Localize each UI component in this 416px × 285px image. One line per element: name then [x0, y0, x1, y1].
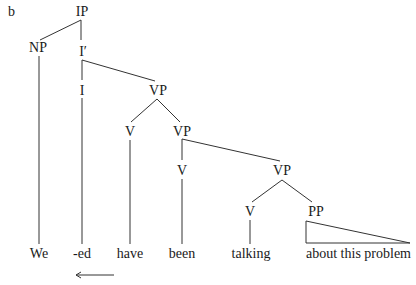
- node-pp: PP: [308, 204, 324, 219]
- node-v-1: V: [125, 124, 135, 139]
- edge-ibar-vp: [82, 60, 155, 81]
- syntax-tree-diagram: b IP NP I′ I VP V VP: [0, 0, 416, 285]
- node-v-2: V: [177, 163, 187, 178]
- node-v-3: V: [245, 204, 255, 219]
- leaf-pp-text: about this problem: [306, 246, 411, 261]
- node-vp-3: VP: [273, 163, 291, 178]
- node-vp-1: VP: [149, 83, 167, 98]
- tree-leaves: We -ed have been talking about this prob…: [30, 246, 411, 261]
- edge-vp1-v1: [131, 99, 157, 122]
- leaf-talking: talking: [232, 246, 271, 261]
- node-i: I: [80, 83, 85, 98]
- tree-edges: [39, 20, 410, 244]
- edge-vp3-v3: [252, 180, 282, 202]
- tree-nodes: IP NP I′ I VP V VP V VP V PP: [29, 4, 324, 219]
- edge-ip-np: [40, 20, 81, 40]
- node-ip: IP: [76, 4, 89, 19]
- edge-vp1-vp2: [157, 99, 180, 122]
- leaf-have: have: [117, 246, 143, 261]
- node-i-bar: I′: [79, 44, 87, 59]
- figure-label: b: [8, 4, 15, 19]
- node-np: NP: [29, 40, 47, 55]
- leaf-we: We: [30, 246, 48, 261]
- leaf-been: been: [169, 246, 195, 261]
- node-vp-2: VP: [173, 124, 191, 139]
- pp-triangle: [306, 221, 410, 243]
- edge-vp3-pp: [282, 180, 312, 202]
- movement-arrow-icon: [76, 272, 114, 278]
- leaf-ed: -ed: [73, 246, 91, 261]
- edge-vp2-vp3: [182, 139, 280, 161]
